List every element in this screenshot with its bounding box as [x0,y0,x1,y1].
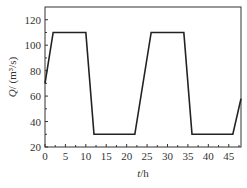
y-tick-label: 100 [25,39,42,51]
x-tick-label: 35 [182,150,194,162]
x-tick-label: 15 [101,150,113,162]
flow-chart: 05101520253035404520406080100120t/hQ/ (m… [0,0,247,188]
x-axis-label: t/h [137,167,149,179]
x-tick-label: 30 [162,150,174,162]
y-tick-label: 60 [30,90,42,102]
x-tick-label: 20 [121,150,133,162]
y-tick-label: 80 [30,65,42,77]
y-tick-label: 20 [30,141,42,153]
y-axis-label: Q/ (m³/s) [6,57,19,98]
series-line [45,32,241,134]
x-tick-label: 40 [203,150,215,162]
x-tick-label: 0 [42,150,48,162]
x-tick-label: 45 [223,150,235,162]
x-tick-label: 5 [63,150,69,162]
plot-frame [45,7,241,147]
chart-canvas: 05101520253035404520406080100120t/hQ/ (m… [0,0,247,188]
x-tick-label: 10 [80,150,92,162]
y-tick-label: 120 [25,14,42,26]
y-tick-label: 40 [30,116,42,128]
x-tick-label: 25 [142,150,154,162]
